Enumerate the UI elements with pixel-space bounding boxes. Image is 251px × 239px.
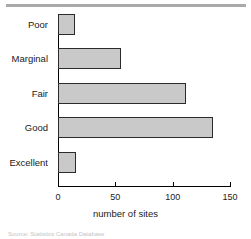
category-label-marginal: Marginal <box>0 53 48 64</box>
category-label-good: Good <box>0 122 48 133</box>
bar-fair[interactable] <box>58 83 186 104</box>
x-tick-label-50: 50 <box>110 192 120 202</box>
x-tick-150 <box>230 182 231 187</box>
plot-area: Poor Marginal Fair Good Excellent 0 50 1… <box>0 0 251 200</box>
x-tick-50 <box>115 182 116 187</box>
x-tick-100 <box>173 182 174 187</box>
bar-good[interactable] <box>58 117 213 138</box>
x-axis-line <box>58 186 230 187</box>
x-tick-label-150: 150 <box>222 192 237 202</box>
x-axis-title: number of sites <box>0 208 251 219</box>
x-tick-label-0: 0 <box>55 192 60 202</box>
category-label-excellent: Excellent <box>0 157 48 168</box>
category-label-poor: Poor <box>0 19 48 30</box>
bar-excellent[interactable] <box>58 152 76 173</box>
source-caption: Source: Statistics Canada Database <box>8 231 246 238</box>
bar-marginal[interactable] <box>58 48 121 69</box>
category-label-fair: Fair <box>0 88 48 99</box>
bar-poor[interactable] <box>58 14 75 35</box>
x-tick-label-100: 100 <box>165 192 180 202</box>
bar-chart-figure: Poor Marginal Fair Good Excellent 0 50 1… <box>0 0 251 239</box>
x-tick-0 <box>58 182 59 187</box>
